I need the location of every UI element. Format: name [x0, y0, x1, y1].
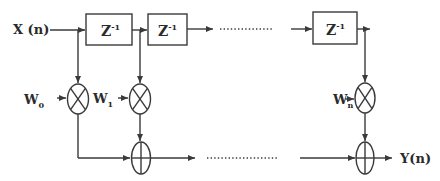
input-label: X (n) — [13, 22, 49, 37]
weight-label-1: W1 — [92, 91, 113, 109]
output-label: Y(n) — [399, 151, 431, 166]
delay-block-1: Z-1 — [86, 14, 132, 45]
weight-label-0: W0 — [23, 92, 45, 110]
delay-block-n: Z-1 — [313, 12, 357, 44]
weight-label-n: Wn — [332, 92, 354, 110]
multiplier-n — [355, 83, 375, 113]
multiplier-0 — [68, 84, 89, 114]
multiplier-1 — [130, 84, 151, 114]
fir-filter-diagram: X (n) Z-1 Z-1 Z-1 W0 — [0, 0, 440, 181]
adder-n — [356, 142, 374, 174]
delay-block-2: Z-1 — [148, 14, 187, 45]
adder-1 — [132, 142, 151, 174]
